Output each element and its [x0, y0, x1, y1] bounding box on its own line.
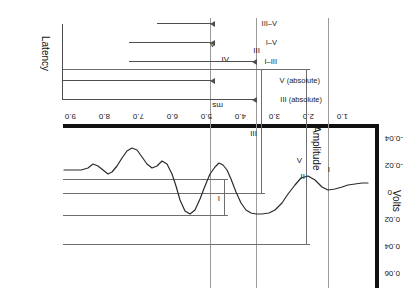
y-tick-0-06: 0.06	[384, 269, 400, 278]
latency-arrow-iii-absolute-head	[252, 97, 257, 103]
latency-label-iii-absolute: III (absolute)	[280, 96, 322, 104]
latency-arrow-iii-absolute-line	[63, 99, 257, 100]
latency-label-iii-v: III–V	[262, 20, 277, 28]
latency-label-i-v: I–V	[266, 39, 277, 47]
latency-arrow-i-v-line	[129, 42, 211, 43]
abr-chart-figure: 1.0 2.0 3.0 4.0 5.0 6.0 7.0 8.0 9.0 ms 0…	[0, 0, 408, 298]
y-tick-0-04: 0.04	[384, 242, 400, 251]
latency-label-v-absolute: V (absolute)	[280, 77, 320, 85]
latency-arrow-i-iii-line	[129, 61, 257, 62]
wave-label-iv: IV	[221, 55, 229, 64]
bracket-line-iii-bottom	[63, 69, 262, 70]
latency-axis-title: Latency	[40, 36, 51, 71]
amplitude-bracket-v-cap-bottom	[303, 69, 310, 70]
latency-arrow-iii-v-line	[157, 23, 211, 24]
y-axis-title: Volts	[391, 190, 402, 212]
abr-waveform-trace	[49, 98, 379, 288]
amplitude-bracket-iii-cap-bottom	[258, 69, 265, 70]
latency-arrow-v-absolute-head	[210, 78, 215, 84]
latency-arrow-i-iii-head	[252, 59, 257, 65]
y-tick-0-02: 0.02	[384, 215, 400, 224]
wave-label-ii: II	[301, 172, 305, 181]
latency-arrow-iii-v-head	[210, 21, 215, 27]
latency-arrow-i-v-head	[210, 40, 215, 46]
wave-label-i: I	[328, 165, 330, 174]
latency-label-i-iii: I–III	[264, 58, 277, 66]
y-tick-neg-0-02: -0.02	[385, 161, 403, 170]
wave-label-iii: III	[253, 46, 260, 55]
latency-origin-stem	[62, 24, 63, 100]
y-tick-neg-0-04: -0.04	[385, 134, 403, 143]
latency-arrow-v-absolute-line	[63, 80, 211, 81]
